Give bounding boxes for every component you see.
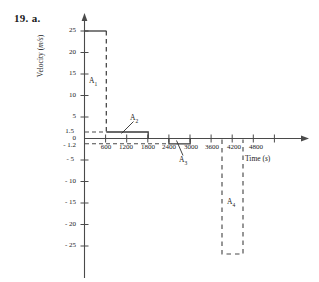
y-tick-label-minus15: - 15 (50, 198, 76, 206)
x-tick-label-2400: 2400 (157, 143, 181, 151)
x-axis-arrowhead (301, 136, 309, 142)
x-tick-label-4200: 4200 (222, 143, 246, 151)
area-label-a2-sub: 2 (135, 118, 138, 124)
y-tick-label-20: 20 (54, 48, 76, 56)
area-label-a1-sub: 1 (94, 81, 97, 87)
y-tick-label-minus20: - 20 (50, 220, 76, 228)
y-tick-label-minus1p2: - 1.2 (48, 141, 76, 149)
y-axis-title-text: Velocity ( (36, 48, 45, 77)
x-axis-title-text: Time ( (245, 154, 265, 163)
y-tick-label-5: 5 (54, 112, 76, 120)
area-label-a3: A3 (179, 155, 187, 166)
area-label-a3-sub: 3 (184, 160, 187, 166)
y-axis-title: Velocity (m/s) (36, 24, 45, 88)
x-tick-label-3600: 3600 (200, 143, 224, 151)
x-tick-label-1200: 1200 (114, 143, 138, 151)
y-axis-title-close: ) (36, 35, 45, 38)
area-label-a4-sub: 4 (232, 202, 235, 208)
a2-rectangle-outline (107, 132, 149, 139)
y-tick-label-15: 15 (54, 69, 76, 77)
y-tick-label-minus25: - 25 (50, 241, 76, 249)
y-tick-label-minus10: - 10 (50, 177, 76, 185)
y-tick-label-25: 25 (54, 26, 76, 34)
velocity-time-graph-figure: 19. a. (0, 0, 319, 282)
area-label-a4: A4 (227, 197, 235, 208)
area-label-a2: A2 (130, 113, 138, 124)
y-tick-label-10: 10 (54, 91, 76, 99)
y-axis-arrowhead (82, 13, 88, 21)
y-tick-label-minus5: - 5 (52, 155, 74, 163)
x-axis-title-close: ) (268, 154, 271, 163)
y-axis-title-unit: m/s (36, 37, 45, 47)
x-axis-title: Time (s) (245, 154, 270, 163)
x-tick-label-4800: 4800 (244, 143, 268, 151)
area-label-a1: A1 (89, 76, 97, 87)
